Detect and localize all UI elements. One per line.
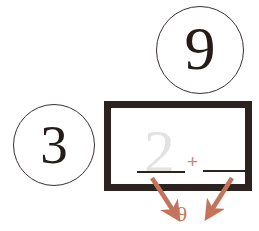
result-value: 9	[177, 204, 187, 224]
number-bubble-three-label: 3	[40, 117, 68, 172]
number-bubble-nine[interactable]: 9	[156, 6, 244, 94]
answer-blank-left[interactable]	[137, 171, 185, 173]
equation-frame-inner: 2 +	[111, 108, 245, 184]
plus-operator: +	[187, 152, 198, 171]
number-bubble-three[interactable]: 3	[13, 104, 95, 186]
number-bubble-nine-label: 9	[185, 17, 216, 79]
diagram-canvas: 9 3 2 + 9	[0, 0, 259, 231]
answer-blank-right[interactable]	[203, 170, 252, 172]
equation-frame: 2 +	[104, 101, 252, 191]
